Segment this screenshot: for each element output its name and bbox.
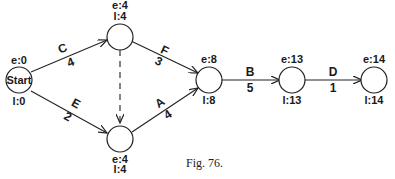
activity-b-name: B (246, 65, 255, 79)
activity-b-duration: 5 (247, 81, 254, 95)
activity-f-duration: 3 (153, 54, 165, 70)
node-5: e:13 l:13 (279, 53, 305, 106)
node-start-early: e:0 (11, 54, 27, 66)
activity-c-duration: 4 (65, 54, 77, 70)
node-6: e:14 l:14 (361, 53, 387, 106)
node-start-label: Start (6, 74, 31, 86)
node-5-late: l:13 (283, 94, 302, 106)
network-diagram: Start e:0 l:0 e:4 l:4 e:4 l:4 e:8 l:8 e:… (0, 0, 395, 179)
node-4-late: l:8 (203, 94, 216, 106)
figure-caption: Fig. 76. (186, 156, 223, 170)
activity-a-duration: 4 (161, 107, 175, 123)
node-6-early: e:14 (363, 53, 386, 65)
node-6-late: l:14 (365, 94, 385, 106)
activity-e-duration: 2 (62, 109, 75, 125)
node-start: Start e:0 l:0 (6, 54, 32, 107)
node-3: e:4 l:4 (107, 126, 133, 175)
activity-d-name: D (329, 65, 338, 79)
node-start-late: l:0 (13, 95, 26, 107)
activity-d-duration: 1 (330, 81, 337, 95)
node-4: e:8 l:8 (196, 53, 222, 106)
node-4-early: e:8 (201, 53, 217, 65)
activity-c-name: C (56, 40, 70, 56)
node-5-early: e:13 (281, 53, 303, 65)
node-2: e:4 l:4 (107, 0, 133, 50)
node-3-late: l:4 (114, 163, 128, 175)
node-2-late: l:4 (114, 10, 128, 22)
